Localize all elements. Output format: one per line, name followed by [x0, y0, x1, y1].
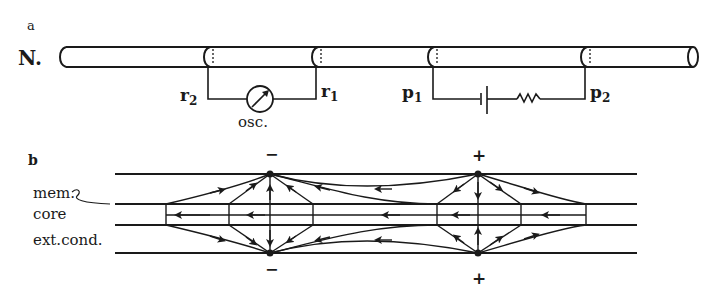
figure: a N. — [0, 0, 715, 294]
electrode-r1 — [312, 47, 321, 67]
oscilloscope-meter-icon — [247, 86, 273, 112]
core-label: core — [33, 205, 67, 223]
negative-sign-bottom: − — [265, 260, 278, 279]
positive-sign-bottom: + — [472, 268, 486, 288]
membrane-pointer — [72, 190, 110, 204]
positive-node-field — [437, 171, 586, 257]
external-conductor-label: ext.cond. — [33, 231, 103, 249]
electrode-p2 — [581, 47, 590, 67]
electrode-p1-label: p1 — [402, 82, 422, 105]
positive-sign-top: + — [472, 145, 486, 165]
oscilloscope-label: osc. — [238, 113, 268, 131]
electrode-r2-label: r2 — [180, 85, 197, 108]
electrode-r1-label: r1 — [321, 81, 338, 104]
resistor-icon — [517, 94, 540, 102]
negative-node-field — [166, 171, 478, 257]
electrode-p2-label: p2 — [590, 82, 610, 105]
electrode-r2 — [204, 47, 213, 67]
core-current-paths — [166, 204, 586, 225]
negative-sign-top: − — [265, 145, 278, 164]
panel-b: b mem. core ext.cond. — [28, 145, 637, 288]
nerve-label: N. — [18, 46, 42, 70]
panel-a-label: a — [27, 18, 35, 33]
battery-icon — [481, 86, 487, 114]
membrane-label: mem. — [33, 184, 75, 202]
panel-b-label: b — [28, 152, 38, 168]
electrode-p1 — [428, 47, 437, 67]
panel-a: a N. — [18, 18, 698, 131]
nerve-tube — [60, 47, 698, 67]
recording-circuit — [208, 67, 316, 112]
stimulating-circuit — [433, 67, 585, 114]
